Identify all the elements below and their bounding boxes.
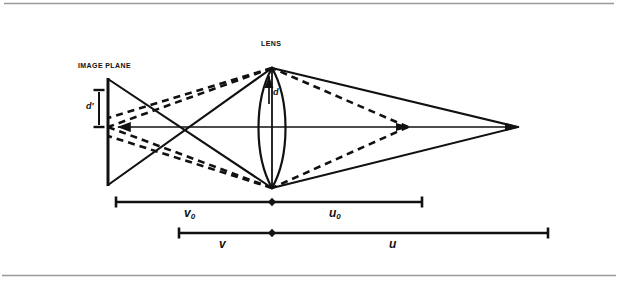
u-actual-label: u	[389, 238, 396, 250]
image-plane-label: IMAGE PLANE	[78, 62, 131, 69]
u-focused-subscript: 0	[336, 212, 340, 221]
optics-ray-diagram-figure: IMAGE PLANE LENS d' d v0 u0 v u	[0, 0, 618, 290]
page-rule-group	[2, 4, 616, 276]
blur-diameter-marker	[94, 90, 105, 127]
v-actual-label: v	[219, 238, 226, 250]
dimension-bar-actual	[179, 228, 548, 239]
focused-ray-right-lower	[272, 127, 518, 188]
defocused-ray-right-lower	[272, 127, 408, 188]
u-focused-label: u0	[329, 207, 341, 221]
aperture-diameter-label: d	[273, 88, 279, 97]
blur-diameter-label: d'	[86, 102, 94, 111]
lens-group	[259, 68, 286, 188]
focused-ray-right-upper	[272, 68, 518, 127]
diagram-canvas	[0, 0, 618, 290]
focused-ray-bundle	[108, 68, 518, 188]
focused-convergence-arrow-icon	[505, 123, 520, 131]
defocused-ray-right-upper	[272, 68, 408, 127]
focused-ray-left-lower	[108, 79, 272, 188]
dimension-bar-focused-tick-middle	[268, 198, 276, 206]
dimension-bar-actual-tick-middle	[268, 229, 276, 237]
lens-label: LENS	[261, 40, 281, 47]
v-focused-subscript: 0	[191, 212, 195, 221]
v-focused-label: v0	[184, 207, 195, 221]
defocused-ray-left-upper-outer	[108, 68, 272, 118]
defocused-ray-left-lower-outer	[108, 136, 272, 188]
dimension-bar-focused	[116, 197, 422, 208]
v-focused-symbol: v	[184, 206, 191, 220]
